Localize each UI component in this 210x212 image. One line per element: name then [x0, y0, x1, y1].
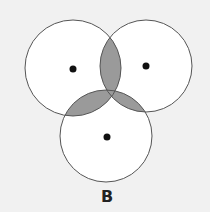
left-center-dot: [70, 66, 77, 73]
figure-label: B: [0, 188, 210, 206]
bottom-center-dot: [104, 134, 111, 141]
right-center-dot: [143, 63, 150, 70]
three-circle-venn-diagram: [0, 0, 210, 212]
figure-frame: B: [0, 0, 210, 212]
